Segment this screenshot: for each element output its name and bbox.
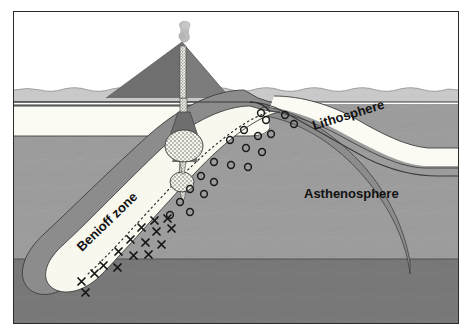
figure-page: Lithosphere Asthenosphere Benioff zone [0, 0, 474, 335]
smoke-puff-upper [182, 21, 191, 29]
label-asthenosphere: Asthenosphere [304, 186, 399, 201]
smoke-puff-lower [179, 33, 186, 40]
magma-chamber-lower [170, 172, 194, 192]
magma-chamber-upper [165, 130, 203, 162]
diagram-frame: Lithosphere Asthenosphere Benioff zone [13, 11, 459, 324]
volcano-vent-conduit [180, 46, 186, 98]
subduction-zone-diagram: Lithosphere Asthenosphere Benioff zone [14, 12, 458, 323]
